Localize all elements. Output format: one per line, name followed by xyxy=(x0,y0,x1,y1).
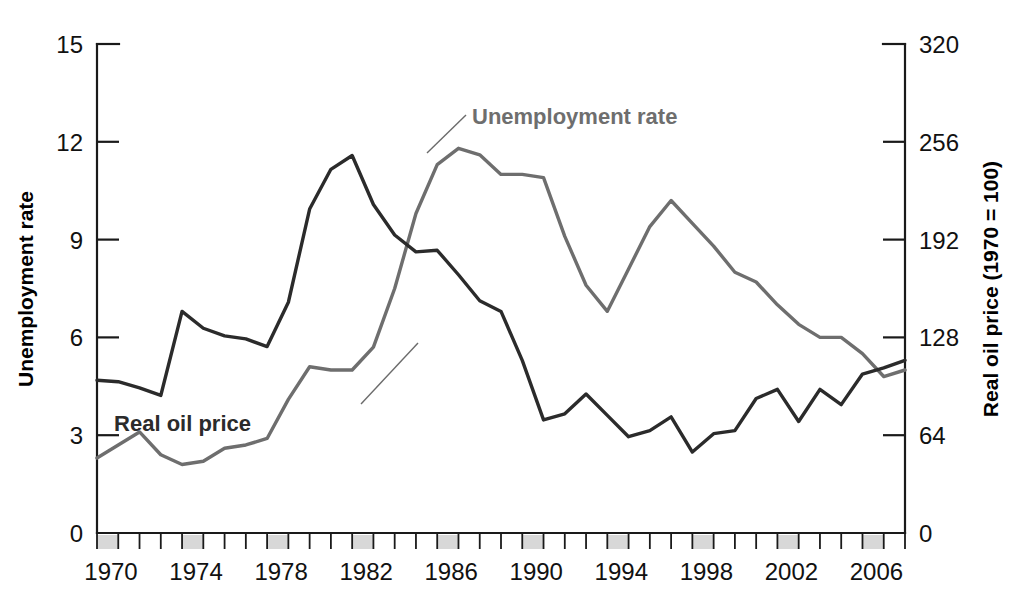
right-axis-tick-label: 192 xyxy=(919,227,959,254)
recession-band xyxy=(267,535,288,549)
dual-axis-line-chart: 03691215 064128192256320 197019741978198… xyxy=(0,0,1027,602)
x-axis-tick-label: 1970 xyxy=(84,558,137,585)
left-axis-title: Unemployment rate xyxy=(14,191,37,387)
left-axis-tick-label: 9 xyxy=(70,227,83,254)
chart-container: 03691215 064128192256320 197019741978198… xyxy=(0,0,1027,602)
x-axis-tick-label: 1986 xyxy=(425,558,478,585)
left-axis-tick-label: 15 xyxy=(56,31,83,58)
right-axis-tick-label: 64 xyxy=(919,422,946,449)
right-axis-tick-label: 128 xyxy=(919,324,959,351)
recession-band xyxy=(522,535,543,549)
recession-band xyxy=(352,535,373,549)
x-axis-tick-label: 1990 xyxy=(510,558,563,585)
recession-band xyxy=(607,535,628,549)
left-axis-tick-label: 3 xyxy=(70,422,83,449)
left-axis-tick-label: 12 xyxy=(56,129,83,156)
x-axis-tick-label: 1982 xyxy=(339,558,392,585)
x-axis-tick-label: 2006 xyxy=(850,558,903,585)
right-axis-title: Real oil price (1970 = 100) xyxy=(979,161,1002,417)
recession-band xyxy=(692,535,713,549)
series-label-unemployment: Unemployment rate xyxy=(472,104,677,129)
recession-band xyxy=(182,535,203,549)
left-axis-tick-label: 0 xyxy=(70,520,83,547)
x-axis-tick-label: 2002 xyxy=(765,558,818,585)
x-axis-tick-label: 1998 xyxy=(680,558,733,585)
right-axis-tick-label: 320 xyxy=(919,31,959,58)
recession-band xyxy=(862,535,883,549)
series-label-oil: Real oil price xyxy=(114,411,251,436)
chart-background xyxy=(0,0,1027,602)
recession-band xyxy=(777,535,798,549)
recession-band xyxy=(437,535,458,549)
x-axis-tick-label: 1978 xyxy=(254,558,307,585)
right-axis-tick-label: 0 xyxy=(919,520,932,547)
right-axis-tick-label: 256 xyxy=(919,129,959,156)
recession-band xyxy=(97,535,118,549)
x-axis-tick-label: 1974 xyxy=(169,558,222,585)
left-axis-tick-label: 6 xyxy=(70,324,83,351)
x-axis-tick-label: 1994 xyxy=(595,558,648,585)
